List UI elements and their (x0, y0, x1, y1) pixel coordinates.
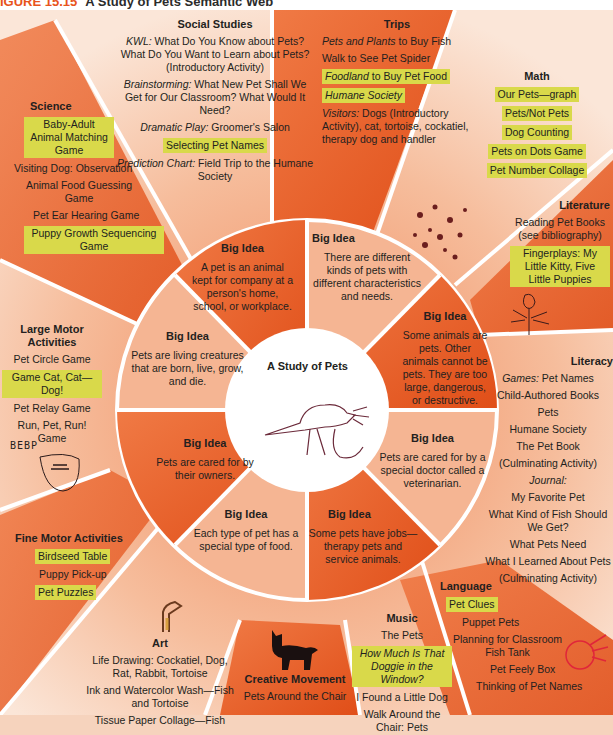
big-idea-5: Big Idea Some pets have jobs—therapy pet… (308, 508, 418, 566)
figure-caption: IGURE 15.15A Study of Pets Semantic Web (0, 0, 613, 10)
big-idea-3: Big Idea Some animals are pets. Other an… (400, 310, 490, 407)
area-literacy: Literacy Games: Pet Names Child-Authored… (483, 355, 613, 589)
rat-drawing-icon (245, 385, 375, 465)
dog-face-drawing-icon (35, 445, 85, 495)
big-idea-4: Big Idea Pets are cared for by a special… (375, 432, 490, 490)
area-music: Music The Pets How Much Is That Doggie i… (352, 612, 452, 735)
child-handwriting: BEBP (10, 440, 38, 451)
area-art: Art Life Drawing: Cockatiel, Dog, Rat, R… (85, 637, 235, 731)
area-literature: Literature Reading Pet Books (see biblio… (510, 199, 610, 291)
cat-silhouette-icon (262, 628, 322, 673)
cat-face-drawing-icon (560, 625, 610, 675)
center-title: A Study of Pets (250, 360, 365, 372)
area-science: Science Baby-Adult Animal Matching Game … (8, 100, 173, 258)
figure-title: A Study of Pets Semantic Web (85, 0, 273, 9)
area-math: Math Our Pets—graph Pets/Not Pets Dog Co… (482, 70, 592, 182)
hand-drawing-icon (155, 600, 185, 635)
area-fine-motor: Fine Motor Activities Birdseed Table Pup… (15, 532, 125, 604)
area-large-motor: Large Motor Activities Pet Circle Game G… (2, 323, 102, 449)
area-trips: Trips Pets and Plants to Buy Fish Walk t… (322, 18, 472, 150)
pet-number-collage-drawing-icon (405, 195, 480, 270)
cat-stick-drawing-icon (505, 290, 555, 340)
big-idea-8: Big Idea Pets are living creatures that … (130, 330, 245, 388)
figure-label: IGURE 15.15 (0, 0, 77, 9)
big-idea-1: Big Idea A pet is an animal kept for com… (190, 242, 295, 313)
big-idea-7: Big Idea Pets are cared for by their own… (150, 437, 260, 482)
big-idea-6: Big Idea Each type of pet has a special … (190, 508, 302, 553)
area-creative-movement: Creative Movement Pets Around the Chair (235, 673, 355, 707)
